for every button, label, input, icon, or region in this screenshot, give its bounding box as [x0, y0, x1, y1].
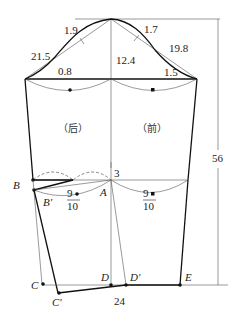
back-fraction-denominator: 10	[67, 200, 79, 212]
front-square-marker	[151, 88, 155, 92]
label-cap-height: 12.4	[116, 54, 136, 66]
front-lower-square	[151, 192, 155, 196]
label-point-c-prime: C′	[52, 296, 62, 308]
point-c	[41, 282, 45, 286]
front-side-seam-upper	[188, 79, 197, 180]
back-side-seam-upper	[25, 79, 33, 180]
label-left-curve-offset: 0.8	[58, 65, 72, 77]
label-point-a: A	[99, 186, 107, 198]
point-e	[178, 283, 182, 287]
label-back-panel: （后）	[58, 123, 88, 134]
front-lower-arc	[111, 180, 188, 193]
label-elbow-offset: 3	[114, 167, 120, 179]
back-dot-marker	[68, 88, 72, 92]
label-point-d: D	[100, 271, 109, 283]
front-fraction-denominator: 10	[143, 200, 155, 212]
center-lower-slant	[111, 180, 126, 285]
label-front-panel: （前）	[137, 122, 167, 134]
point-d	[109, 283, 113, 287]
label-point-e: E	[184, 271, 192, 283]
label-point-d-prime: D′	[129, 271, 141, 283]
label-right-curve-offset: 1.5	[164, 66, 178, 78]
label-left-cap-line: 21.5	[31, 50, 51, 62]
point-c-prime	[57, 291, 61, 295]
back-lower-guide	[33, 180, 42, 284]
label-point-b-prime: B′	[43, 196, 53, 208]
point-d-prime	[124, 283, 128, 287]
front-lower-seam	[180, 180, 188, 285]
label-cuff-width: 24	[114, 295, 126, 307]
label-total-length: 56	[212, 152, 224, 164]
label-right-cap-line: 19.8	[169, 42, 189, 54]
label-point-b: B	[13, 179, 20, 191]
back-elbow-dashed-arc-1	[33, 172, 73, 180]
label-top-left-offset: 1.9	[64, 24, 78, 36]
sleeve-pattern-diagram: 1.9 1.7 21.5 19.8 12.4 0.8 1.5 3 56 24 （…	[0, 0, 238, 327]
label-top-right-offset: 1.7	[144, 23, 158, 35]
front-fraction-numerator: 9	[143, 187, 149, 199]
hem-back-segment	[58, 285, 126, 293]
back-biceps-arc	[25, 79, 111, 91]
back-fraction-numerator: 9	[67, 187, 73, 199]
label-point-c: C	[31, 279, 39, 291]
back-elbow-dashed-arc-2	[73, 172, 111, 180]
back-lower-dot	[75, 192, 79, 196]
